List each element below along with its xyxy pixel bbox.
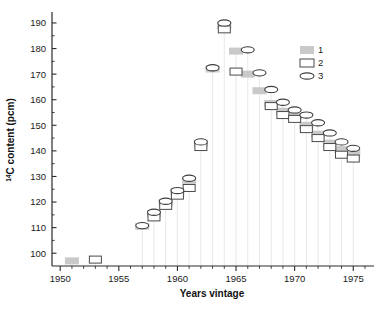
data-point-ellipse: [323, 130, 336, 136]
data-point-open-rect: [183, 184, 195, 191]
y-tick-label: 100: [30, 248, 46, 259]
data-point-ellipse: [194, 139, 207, 145]
x-tick-label: 1950: [50, 273, 71, 284]
data-point-ellipse: [159, 198, 172, 204]
data-point-filled-rect: [241, 71, 255, 78]
data-point-ellipse: [312, 120, 325, 126]
legend-marker-ellipse[interactable]: [300, 73, 314, 79]
data-point-open-rect: [289, 115, 301, 122]
y-tick-label: 140: [30, 145, 46, 156]
data-point-filled-rect: [65, 257, 79, 264]
y-tick-label: 120: [30, 196, 46, 207]
data-point-open-rect: [300, 126, 312, 133]
y-tick-label: 170: [30, 69, 46, 80]
x-tick-label: 1970: [284, 273, 305, 284]
data-point-ellipse: [253, 70, 266, 76]
data-point-ellipse: [300, 112, 313, 118]
data-point-open-rect: [218, 26, 230, 33]
data-point-open-rect: [324, 144, 336, 151]
x-axis-title: Years vintage: [180, 288, 245, 299]
data-point-ellipse: [147, 209, 160, 215]
data-point-ellipse: [241, 47, 254, 53]
data-point-open-rect: [89, 256, 101, 263]
data-point-ellipse: [171, 187, 184, 193]
data-point-ellipse: [276, 99, 289, 105]
data-point-ellipse: [265, 86, 278, 92]
data-point-open-rect: [265, 103, 277, 110]
chart-container: 1001101201301401501601701801901950195519…: [0, 0, 387, 319]
data-point-ellipse: [218, 20, 231, 26]
legend-label-2: 2: [318, 57, 323, 68]
data-point-ellipse: [136, 222, 149, 228]
data-point-ellipse: [335, 139, 348, 145]
y-tick-label: 160: [30, 94, 46, 105]
y-tick-label: 190: [30, 17, 46, 28]
legend-label-1: 1: [318, 44, 323, 55]
x-tick-label: 1960: [167, 273, 188, 284]
data-point-filled-rect: [252, 87, 266, 94]
y-tick-label: 130: [30, 171, 46, 182]
x-tick-label: 1965: [225, 273, 246, 284]
y-tick-label: 180: [30, 43, 46, 54]
data-point-ellipse: [206, 65, 219, 71]
x-tick-label: 1955: [108, 273, 129, 284]
legend: 123: [300, 44, 323, 81]
data-point-open-rect: [347, 155, 359, 162]
y-axis-title-main: C content (pcm): [5, 98, 16, 174]
c14-vintage-chart: 1001101201301401501601701801901950195519…: [0, 0, 387, 319]
legend-marker-open-rect[interactable]: [300, 59, 314, 67]
data-point-filled-rect: [229, 48, 243, 55]
data-point-ellipse: [183, 175, 196, 181]
data-point-open-rect: [230, 68, 242, 75]
legend-label-3: 3: [318, 70, 323, 81]
x-tick-label: 1975: [343, 273, 364, 284]
data-point-open-rect: [277, 112, 289, 119]
data-point-open-rect: [312, 135, 324, 142]
data-point-ellipse: [288, 107, 301, 113]
y-tick-label: 150: [30, 120, 46, 131]
y-axis-title: 14C content (pcm): [5, 98, 17, 181]
data-point-open-rect: [336, 151, 348, 158]
legend-marker-filled-rect[interactable]: [300, 46, 314, 54]
y-tick-label: 110: [31, 222, 46, 233]
data-point-ellipse: [347, 145, 360, 151]
